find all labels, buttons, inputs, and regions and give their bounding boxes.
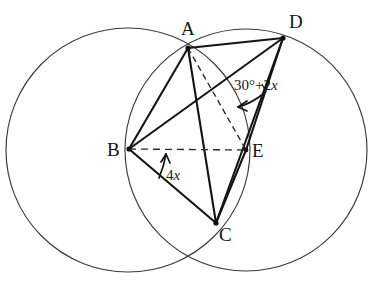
segment-AC [188, 48, 216, 223]
angle-label-at-E-prefix: 30°+2 [234, 77, 271, 93]
angle-arc-at-B-path [159, 154, 166, 178]
vertex-dots-group [126, 35, 285, 225]
segment-CE [216, 150, 246, 223]
angle-label-at-B: 4x [166, 168, 180, 183]
vertex-label-B: B [107, 140, 120, 159]
vertex-label-D: D [289, 12, 303, 31]
segments-group [129, 38, 283, 223]
circles-group [6, 28, 367, 272]
vertex-label-E: E [252, 141, 264, 160]
angle-label-at-E-variable: x [271, 77, 278, 93]
vertex-dot-B [126, 146, 131, 151]
segment-AB [129, 48, 188, 149]
angle-label-at-E: 30°+2x [234, 78, 278, 93]
geometry-figure: A D B E C 30°+2x 4x [0, 0, 374, 289]
vertex-label-C: C [219, 225, 232, 244]
vertex-dot-E [244, 148, 249, 153]
segment-BE [129, 149, 246, 150]
vertex-dot-A [185, 45, 190, 50]
geometry-canvas [0, 0, 374, 289]
angle-label-at-B-variable: x [174, 167, 181, 183]
vertex-dot-D [280, 35, 285, 40]
angle-label-at-B-prefix: 4 [166, 167, 174, 183]
segment-DE [246, 38, 283, 150]
segment-BD [129, 38, 283, 149]
vertex-dot-C [213, 220, 218, 225]
segment-AD [188, 38, 283, 48]
vertex-label-A: A [181, 19, 195, 38]
dashed-segments-group [129, 48, 246, 150]
